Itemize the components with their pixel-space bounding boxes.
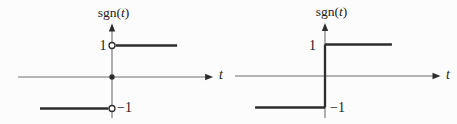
signum-figure: sgn(t) 1 −1 t sgn(t) 1 −1 t (0, 0, 457, 124)
plot-left-title: sgn(t) (98, 5, 130, 20)
y-axis-arrow (322, 23, 328, 31)
plot-left-xaxis-label: t (219, 67, 224, 82)
plot-right: sgn(t) 1 −1 t (235, 4, 451, 118)
filled-dot-marker (109, 74, 114, 79)
plot-right-title: sgn(t) (316, 4, 348, 19)
open-circle-marker (109, 106, 115, 112)
plot-right-xaxis-label: t (446, 67, 451, 82)
x-axis-arrow (433, 73, 441, 79)
x-axis-arrow (205, 74, 213, 80)
open-circle-marker (109, 43, 115, 49)
plot-left: sgn(t) 1 −1 t (18, 5, 224, 118)
plot-right-ytick-pos1: 1 (309, 38, 316, 53)
figure-canvas: sgn(t) 1 −1 t sgn(t) 1 −1 t (0, 0, 457, 124)
plot-left-ytick-neg1: −1 (117, 100, 132, 115)
y-axis-arrow (109, 23, 115, 31)
plot-left-ytick-pos1: 1 (100, 38, 107, 53)
plot-right-ytick-neg1: −1 (330, 100, 345, 115)
